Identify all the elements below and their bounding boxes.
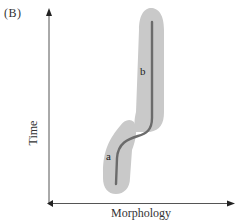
segment-label-a: a	[106, 150, 111, 162]
origin-arrowhead-icon	[47, 200, 53, 207]
y-axis-arrowhead-icon	[46, 8, 52, 16]
morphology-time-diagram: b a Time Morphology	[0, 0, 244, 221]
segment-label-b: b	[140, 65, 146, 77]
y-axis-label: Time	[26, 121, 40, 146]
x-axis-arrowhead-icon	[227, 201, 235, 207]
envelope-b	[135, 8, 165, 132]
x-axis-label: Morphology	[111, 206, 171, 220]
